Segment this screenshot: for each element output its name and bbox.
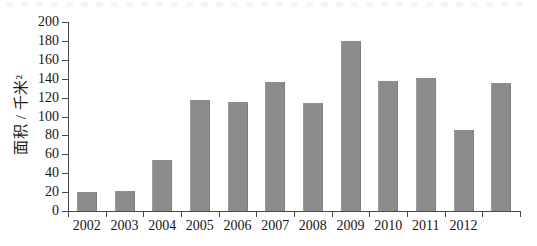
bar: [341, 41, 361, 211]
y-tick-label: 200: [38, 14, 59, 30]
y-tick-label: 120: [38, 90, 59, 106]
y-tick-mark: [62, 98, 68, 99]
scan-artifact-line: [6, 2, 526, 7]
x-tick-label: 2003: [111, 218, 139, 234]
bar-chart-figure: 面积 / 千米² 020406080100120140160180200 200…: [0, 0, 537, 246]
x-tick-mark: [181, 211, 182, 217]
y-tick-label: 100: [38, 109, 59, 125]
bar: [190, 100, 210, 212]
y-tick-label: 140: [38, 71, 59, 87]
x-tick-label: 2008: [299, 218, 327, 234]
y-tick-mark: [62, 173, 68, 174]
y-tick-mark: [62, 60, 68, 61]
bar: [115, 191, 135, 211]
y-tick-label: 60: [45, 146, 59, 162]
x-tick-label: 2009: [337, 218, 365, 234]
y-tick-label: 180: [38, 33, 59, 49]
x-tick-mark: [106, 211, 107, 217]
y-tick-mark: [62, 79, 68, 80]
y-axis-line: [68, 22, 69, 212]
x-tick-label: 2010: [374, 218, 402, 234]
x-tick-mark: [445, 211, 446, 217]
y-tick-label: 40: [45, 165, 59, 181]
bar: [416, 78, 436, 211]
x-tick-mark: [407, 211, 408, 217]
x-tick-label: 2002: [73, 218, 101, 234]
y-axis-title: 面积 / 千米²: [9, 40, 30, 190]
y-tick-mark: [62, 22, 68, 23]
bar: [491, 83, 511, 211]
x-tick-mark: [294, 211, 295, 217]
bar: [77, 192, 97, 211]
x-tick-mark: [520, 211, 521, 217]
plot-area: 020406080100120140160180200 200220032004…: [68, 22, 520, 211]
x-tick-label: 2012: [450, 218, 478, 234]
x-tick-mark: [143, 211, 144, 217]
bar: [454, 130, 474, 211]
x-tick-mark: [482, 211, 483, 217]
x-tick-mark: [256, 211, 257, 217]
y-tick-mark: [62, 41, 68, 42]
y-tick-label: 0: [52, 203, 59, 219]
x-tick-label: 2007: [261, 218, 289, 234]
x-tick-label: 2006: [224, 218, 252, 234]
x-tick-label: 2011: [412, 218, 439, 234]
y-tick-label: 80: [45, 127, 59, 143]
y-tick-mark: [62, 192, 68, 193]
bar: [378, 81, 398, 211]
y-tick-label: 160: [38, 52, 59, 68]
x-tick-label: 2005: [186, 218, 214, 234]
x-tick-label: 2004: [148, 218, 176, 234]
bar: [228, 102, 248, 211]
y-tick-mark: [62, 117, 68, 118]
bar: [152, 160, 172, 211]
y-tick-mark: [62, 135, 68, 136]
x-tick-mark: [369, 211, 370, 217]
x-tick-mark: [332, 211, 333, 217]
y-tick-label: 20: [45, 184, 59, 200]
x-tick-mark: [68, 211, 69, 217]
bar: [265, 82, 285, 211]
y-tick-mark: [62, 154, 68, 155]
bar: [303, 103, 323, 211]
x-tick-mark: [219, 211, 220, 217]
